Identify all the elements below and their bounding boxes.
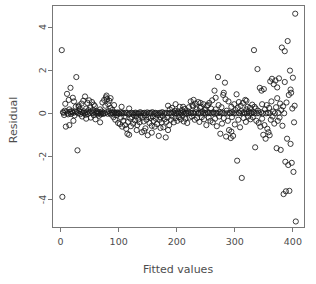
data-point [127, 132, 132, 137]
data-point [266, 130, 271, 135]
data-point [275, 96, 280, 101]
data-point [290, 75, 295, 80]
data-point [293, 11, 298, 16]
x-tick-label: 200 [168, 236, 186, 247]
data-point [59, 48, 64, 53]
x-tick-label: 100 [110, 236, 128, 247]
data-point [285, 38, 290, 43]
x-axis-tick-labels: 0100200300400 [58, 236, 302, 247]
y-axis-ticks [48, 27, 53, 199]
x-tick-label: 400 [284, 236, 302, 247]
data-point [82, 94, 87, 99]
data-point [156, 133, 161, 138]
data-point [284, 136, 289, 141]
data-point-group [59, 11, 298, 224]
x-axis-title: Fitted values [143, 263, 214, 276]
data-point [214, 124, 219, 129]
data-point [282, 49, 287, 54]
data-point [291, 169, 296, 174]
data-point [71, 118, 76, 123]
data-point [260, 116, 265, 121]
scatter-plot-canvas: -4-2024 0100200300400 Residual Fitted va… [0, 0, 316, 284]
data-point [255, 66, 260, 71]
data-point [279, 45, 284, 50]
data-point [213, 95, 218, 100]
y-tick-label: 2 [37, 67, 48, 73]
data-point [234, 92, 239, 97]
data-point [68, 85, 73, 90]
data-point [288, 141, 293, 146]
data-point [235, 158, 240, 163]
data-point [283, 159, 288, 164]
data-point [134, 127, 139, 132]
x-axis-ticks [61, 228, 293, 233]
y-axis-tick-labels: -4-2024 [37, 24, 48, 204]
data-point [60, 194, 65, 199]
data-point [232, 122, 237, 127]
residual-plot-figure: -4-2024 0100200300400 Residual Fitted va… [0, 0, 316, 284]
data-point [239, 175, 244, 180]
data-point [75, 148, 80, 153]
y-axis-title: Residual [7, 97, 20, 143]
x-tick-label: 300 [226, 236, 244, 247]
data-point [237, 125, 242, 130]
data-point [265, 126, 270, 131]
data-point [253, 145, 258, 150]
data-point [165, 127, 170, 132]
data-point [280, 123, 285, 128]
data-point [261, 132, 266, 137]
data-point [293, 219, 298, 224]
data-point [111, 102, 116, 107]
y-tick-label: -4 [37, 195, 48, 204]
data-point [282, 111, 287, 116]
data-point [98, 120, 103, 125]
y-tick-label: -2 [37, 152, 48, 161]
data-point [275, 85, 280, 90]
data-point [149, 130, 154, 135]
data-point [215, 74, 220, 79]
data-point [219, 121, 224, 126]
data-point [267, 133, 272, 138]
data-point [163, 135, 168, 140]
data-point [236, 117, 241, 122]
data-point [212, 88, 217, 93]
data-point [218, 131, 223, 136]
data-point [119, 104, 124, 109]
data-point [222, 80, 227, 85]
data-point [272, 121, 277, 126]
data-point [269, 99, 274, 104]
data-point [282, 79, 287, 84]
data-point [74, 74, 79, 79]
data-point [287, 188, 292, 193]
data-point [251, 48, 256, 53]
plot-frame [53, 6, 305, 228]
data-point [64, 91, 69, 96]
data-point [173, 102, 178, 107]
data-point [287, 68, 292, 73]
data-point [288, 87, 293, 92]
data-point [284, 100, 289, 105]
x-tick-label: 0 [58, 236, 64, 247]
data-point [204, 123, 209, 128]
data-point [291, 120, 296, 125]
y-tick-label: 4 [37, 24, 48, 30]
y-tick-label: 0 [37, 110, 48, 116]
